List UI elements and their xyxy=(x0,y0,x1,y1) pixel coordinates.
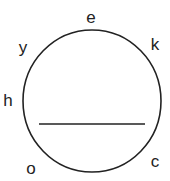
label-e: e xyxy=(86,8,95,27)
label-o: o xyxy=(26,159,35,178)
label-y: y xyxy=(19,38,28,57)
circle-diagram: e k y h o c xyxy=(0,0,170,181)
label-k: k xyxy=(151,35,160,54)
circle xyxy=(23,30,161,172)
labels-group: e k y h o c xyxy=(3,8,159,178)
label-h: h xyxy=(3,91,12,110)
label-c: c xyxy=(151,152,160,171)
